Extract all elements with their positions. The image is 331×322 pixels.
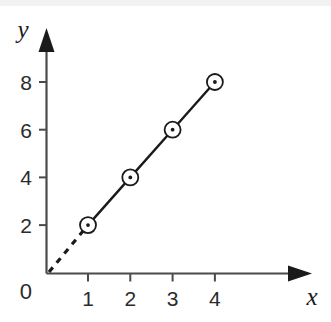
y-tick-label-6: 6 bbox=[20, 119, 32, 142]
x-tick-label-4: 4 bbox=[209, 287, 221, 310]
y-axis-ticks bbox=[39, 82, 47, 225]
y-tick-label-8: 8 bbox=[20, 71, 32, 94]
origin-label: 0 bbox=[20, 279, 32, 304]
x-axis-arrowhead bbox=[288, 266, 312, 282]
data-point-marker-2 bbox=[122, 169, 138, 185]
x-tick-label-2: 2 bbox=[124, 287, 136, 310]
y-axis-label: y bbox=[14, 16, 29, 43]
x-axis-ticks bbox=[88, 274, 215, 282]
line-chart-plot: 8 6 4 2 0 1 2 3 4 y x bbox=[0, 0, 331, 322]
data-point-marker-3 bbox=[165, 122, 181, 138]
data-line bbox=[88, 82, 215, 225]
y-tick-label-2: 2 bbox=[20, 214, 32, 237]
y-tick-label-4: 4 bbox=[20, 166, 32, 189]
x-axis-label: x bbox=[305, 283, 317, 310]
extrapolation-dashed-line bbox=[49, 225, 88, 272]
y-axis-arrowhead bbox=[39, 28, 55, 52]
chart-figure: 8 6 4 2 0 1 2 3 4 y x bbox=[0, 0, 331, 322]
data-point-marker-4 bbox=[207, 74, 223, 90]
data-point-marker-1 bbox=[80, 217, 96, 233]
x-tick-label-3: 3 bbox=[167, 287, 179, 310]
x-tick-label-1: 1 bbox=[82, 287, 94, 310]
